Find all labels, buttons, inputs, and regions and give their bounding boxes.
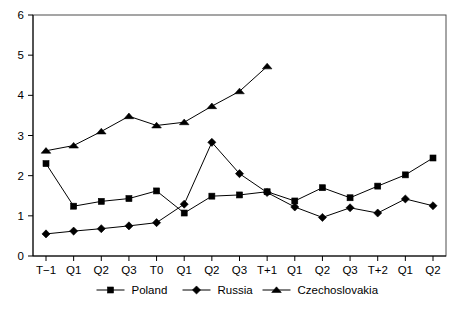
diamond-marker-icon xyxy=(192,286,200,294)
x-axis-tick-label: Q2 xyxy=(315,264,330,276)
series-czechoslovakia xyxy=(41,63,272,153)
x-axis-tick-label: T0 xyxy=(150,264,163,276)
chart-legend: PolandRussiaCzechoslovakia xyxy=(97,284,379,296)
data-point-poland xyxy=(209,193,215,199)
legend-label: Czechoslovakia xyxy=(298,284,379,296)
y-axis-tick-label: 1 xyxy=(18,210,24,222)
chart-canvas: 0123456 T−1Q1Q2Q3T0Q1Q2Q3T+1Q1Q2Q3T+2Q1Q… xyxy=(0,0,459,314)
data-point-russia xyxy=(346,204,354,212)
square-marker-icon xyxy=(108,287,114,293)
data-point-poland xyxy=(237,192,243,198)
data-point-poland xyxy=(126,196,132,202)
plot-area-border xyxy=(33,15,446,256)
data-point-russia xyxy=(429,202,437,210)
plot-frame xyxy=(33,15,446,256)
x-axis-tick-label: Q3 xyxy=(342,264,357,276)
line-chart: 0123456 T−1Q1Q2Q3T0Q1Q2Q3T+1Q1Q2Q3T+2Q1Q… xyxy=(0,0,459,314)
y-axis-tick-label: 6 xyxy=(18,9,24,21)
x-axis-tick-label: Q1 xyxy=(177,264,192,276)
data-point-russia xyxy=(318,213,326,221)
data-point-czechoslovakia xyxy=(235,88,245,94)
data-point-poland xyxy=(347,195,353,201)
y-axis-tick-label: 3 xyxy=(18,130,24,142)
legend-item-russia[interactable]: Russia xyxy=(183,284,254,296)
data-point-poland xyxy=(181,210,187,216)
legend-item-poland[interactable]: Poland xyxy=(97,284,168,296)
data-point-russia xyxy=(42,230,50,238)
data-point-poland xyxy=(71,203,77,209)
series-poland xyxy=(43,155,436,216)
data-point-poland xyxy=(430,155,436,161)
x-axis-tick-label: T+1 xyxy=(257,264,277,276)
data-point-russia xyxy=(374,209,382,217)
x-axis-tick-label: Q1 xyxy=(66,264,81,276)
x-axis-tick-label: Q3 xyxy=(232,264,247,276)
x-axis-tick-label: Q1 xyxy=(398,264,413,276)
data-point-russia xyxy=(70,227,78,235)
data-point-poland xyxy=(375,183,381,189)
data-point-poland xyxy=(154,188,160,194)
legend-item-czechoslovakia[interactable]: Czechoslovakia xyxy=(263,284,379,296)
data-point-russia xyxy=(125,222,133,230)
series-line-czechoslovakia xyxy=(46,66,267,150)
x-axis-tick-label: T+2 xyxy=(368,264,388,276)
x-axis-tick-label: Q3 xyxy=(121,264,136,276)
x-axis-tick-label: Q2 xyxy=(94,264,109,276)
x-axis: T−1Q1Q2Q3T0Q1Q2Q3T+1Q1Q2Q3T+2Q1Q2 xyxy=(33,256,446,276)
x-axis-tick-label: Q2 xyxy=(204,264,219,276)
data-point-poland xyxy=(319,185,325,191)
y-axis: 0123456 xyxy=(18,9,33,262)
y-axis-tick-label: 4 xyxy=(18,89,25,101)
legend-label: Poland xyxy=(132,284,168,296)
data-point-russia xyxy=(97,225,105,233)
legend-label: Russia xyxy=(218,284,254,296)
data-point-poland xyxy=(98,198,104,204)
x-axis-tick-label: T−1 xyxy=(36,264,56,276)
data-point-poland xyxy=(402,172,408,178)
data-point-czechoslovakia xyxy=(69,142,79,148)
y-axis-tick-label: 0 xyxy=(18,250,24,262)
x-axis-tick-label: Q2 xyxy=(425,264,440,276)
data-series-layer xyxy=(41,63,437,238)
data-point-czechoslovakia xyxy=(262,63,272,69)
data-point-russia xyxy=(180,200,188,208)
data-point-poland xyxy=(43,161,49,167)
data-point-russia xyxy=(153,219,161,227)
x-axis-tick-label: Q1 xyxy=(287,264,302,276)
data-point-czechoslovakia xyxy=(124,113,134,119)
data-point-russia xyxy=(401,195,409,203)
y-axis-tick-label: 2 xyxy=(18,170,24,182)
y-axis-tick-label: 5 xyxy=(18,49,24,61)
